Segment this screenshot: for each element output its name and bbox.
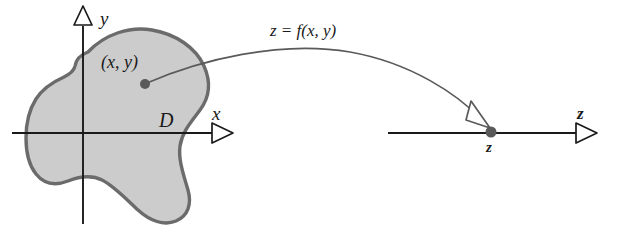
diagram-canvas: y x D (x, y) z = f(x, y) z z <box>0 0 622 241</box>
filled-dot-icon-z <box>486 127 497 138</box>
region-label-d: D <box>158 109 174 131</box>
filled-dot-icon-domain <box>140 79 150 89</box>
point-xy-label: (x, y) <box>101 52 138 73</box>
function-label: z = f(x, y) <box>269 21 337 40</box>
triangle-outline-arrowhead-icon <box>466 101 490 128</box>
y-axis-label: y <box>98 8 109 29</box>
z-point-label: z <box>485 139 492 155</box>
triangle-right-outline-icon-z <box>576 123 597 143</box>
triangle-right-outline-icon <box>212 123 233 143</box>
z-axis-label: z <box>576 104 584 123</box>
x-axis-label: x <box>211 103 221 124</box>
triangle-up-outline-icon <box>74 6 92 25</box>
function-mapping-diagram: y x D (x, y) z = f(x, y) z z <box>0 0 622 241</box>
